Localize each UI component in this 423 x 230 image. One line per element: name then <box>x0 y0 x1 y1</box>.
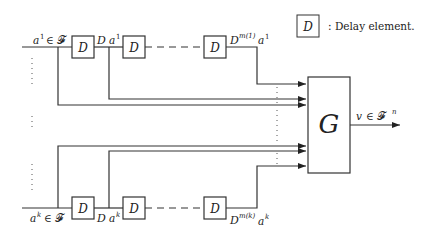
bottom-input-sup: k <box>37 211 41 219</box>
output-rest: ∈ 𝓕 <box>366 110 387 122</box>
legend-text: : Delay element. <box>328 20 415 32</box>
top-input-sup: 1 <box>40 33 44 41</box>
top-out-var-sup: 1 <box>265 33 269 41</box>
ellipsis-dots <box>32 58 277 192</box>
output-sup: n <box>392 108 397 116</box>
bottom-mid-var: a <box>109 212 115 224</box>
legend-delay-label: D <box>302 20 313 34</box>
bottom-out-sup: m(k) <box>239 212 256 220</box>
top-delay-chain <box>22 36 306 105</box>
g-block-label: G <box>319 109 340 139</box>
top-input-rest: ∈ 𝓕 <box>46 34 67 46</box>
bottom-mid-D: D <box>96 212 106 225</box>
top-out-D: D <box>229 34 239 47</box>
top-out-var: a <box>258 34 264 46</box>
top-delay-2-label: D <box>128 41 139 55</box>
top-mid-var: a <box>109 34 115 46</box>
delay-network-diagram: D : Delay element. a 1 ∈ 𝓕 D D a 1 D D D… <box>0 0 423 230</box>
bottom-out-var-sup: k <box>265 213 269 221</box>
legend: D : Delay element. <box>297 15 415 37</box>
bottom-delay-3-label: D <box>209 202 220 216</box>
bottom-out-D: D <box>229 214 239 227</box>
bottom-delay-1-label: D <box>77 202 88 216</box>
output-var: v <box>356 110 362 122</box>
top-input-var: a <box>33 34 39 46</box>
bottom-input-rest: ∈ 𝓕 <box>44 212 65 224</box>
top-out-sup: m(1) <box>239 32 256 40</box>
top-delay-1-label: D <box>77 41 88 55</box>
bottom-delay-chain <box>22 146 306 219</box>
bottom-input-var: a <box>30 212 36 224</box>
top-mid-sup: 1 <box>116 33 120 41</box>
bottom-delay-2-label: D <box>128 202 139 216</box>
bottom-out-var: a <box>258 215 264 227</box>
bottom-mid-sup: k <box>116 211 120 219</box>
top-delay-3-label: D <box>209 41 220 55</box>
top-mid-D: D <box>96 34 106 47</box>
